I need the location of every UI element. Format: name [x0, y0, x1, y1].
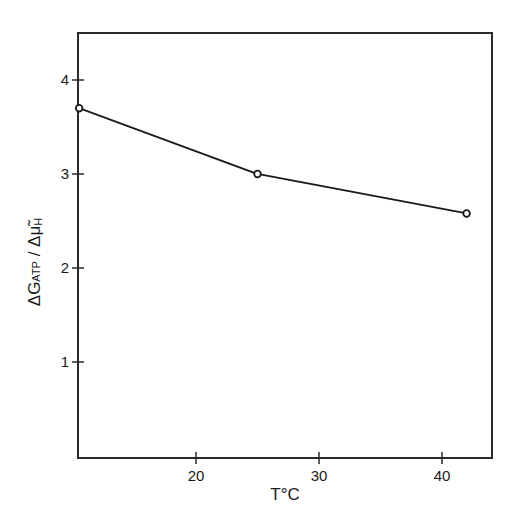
y-tick-label: 1 — [61, 353, 69, 370]
plot-frame — [78, 33, 492, 458]
svg-text:ΔGATP / Δμ̃H: ΔGATP / Δμ̃H — [25, 218, 44, 307]
data-point-marker — [76, 105, 83, 112]
x-tick-label: 30 — [311, 467, 328, 484]
data-point-marker — [254, 171, 261, 178]
y-tick-label: 2 — [61, 259, 69, 276]
line-chart: 1234 203040 T°C ΔGATP / Δμ̃H — [0, 0, 521, 529]
y-axis-ticks: 1234 — [61, 71, 84, 370]
x-tick-label: 20 — [188, 467, 205, 484]
data-markers — [76, 105, 470, 217]
y-tick-label: 4 — [61, 71, 69, 88]
x-axis-ticks: 203040 — [188, 452, 451, 484]
y-axis-title: ΔGATP / Δμ̃H — [25, 218, 44, 307]
data-point-marker — [463, 210, 470, 217]
x-tick-label: 40 — [434, 467, 451, 484]
x-axis-title: T°C — [270, 485, 299, 504]
data-line — [79, 108, 466, 213]
y-tick-label: 3 — [61, 165, 69, 182]
